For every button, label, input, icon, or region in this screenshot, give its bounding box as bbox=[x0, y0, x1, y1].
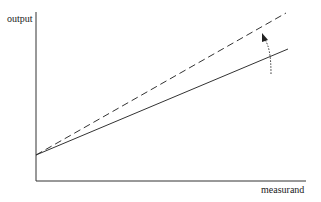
sensitivity-diagram bbox=[0, 0, 321, 202]
arrowhead-icon bbox=[262, 33, 268, 42]
x-axis-label: measurand bbox=[261, 184, 304, 195]
solid-response-line bbox=[36, 49, 288, 155]
y-axis-label: output bbox=[7, 13, 33, 24]
dashed-response-line bbox=[36, 13, 286, 155]
